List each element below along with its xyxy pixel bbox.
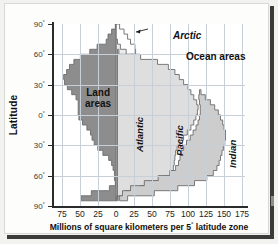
gridline-h-30n (53, 85, 245, 86)
figure-page: 90° 60° 30° 0° 30° 60° (4, 3, 269, 234)
latitude-area-chart: 90° 60° 30° 0° 30° 60° (23, 16, 261, 229)
gridline-h-60s (53, 176, 245, 177)
x-tick-label-150: 150 (217, 210, 231, 219)
x-tick-label-50l: 50 (75, 210, 84, 219)
gridline-h-0 (53, 115, 245, 116)
y-tick-label-30s: 30° (34, 140, 45, 151)
y-tick-label-0: 0° (38, 110, 45, 121)
x-axis-title: Millions of square kilometers per 5° lat… (50, 221, 249, 232)
y-tick-label-90n: 90° (34, 19, 45, 30)
x-tick-label-100: 100 (181, 210, 195, 219)
x-tick-label-75l: 75 (57, 210, 66, 219)
y-tick-label-30n: 30° (34, 80, 45, 91)
plot-area (53, 24, 245, 206)
x-axis-line (52, 206, 248, 208)
x-tick-label-25r: 25 (129, 210, 138, 219)
y-axis-line (52, 22, 54, 208)
land-area (64, 24, 116, 201)
y-axis-title: Latitude (8, 95, 19, 136)
x-tick-label-175: 175 (235, 210, 249, 219)
gridline-h-60n (53, 54, 245, 55)
x-tick-label-0: 0 (114, 210, 119, 219)
page-shadow-bottom (7, 235, 274, 239)
x-tick-label-25l: 25 (93, 210, 102, 219)
x-tick-label-125: 125 (199, 210, 213, 219)
y-tick-label-90s: 90° (34, 201, 45, 212)
x-tick-label-75r: 75 (165, 210, 174, 219)
page-edge-marker (271, 196, 274, 206)
y-tick-label-60s: 60° (34, 171, 45, 182)
x-tick-label-50r: 50 (147, 210, 156, 219)
arctic-leader-line (136, 29, 148, 34)
y-tick-label-60n: 60° (34, 49, 45, 60)
gridline-h-30s (53, 145, 245, 146)
screenshot-root: 90° 60° 30° 0° 30° 60° (0, 0, 278, 244)
